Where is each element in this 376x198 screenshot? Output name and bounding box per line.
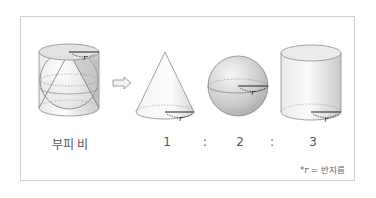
radius-footnote: *r = 반지름: [300, 163, 345, 175]
cone-figure: r: [136, 52, 194, 123]
sphere-figure: r: [208, 56, 268, 116]
sphere-ratio-value: 2: [236, 135, 244, 149]
ratio-separator-1: :: [203, 135, 207, 149]
cone-body: [136, 52, 194, 119]
combined-cylinder-sphere-cone: r: [39, 44, 99, 116]
volume-ratio-label: 부피 비: [52, 135, 89, 152]
cylinder-figure: r: [281, 45, 341, 124]
cylinder-ratio-value: 3: [309, 135, 317, 149]
cylinder-top-ellipse: [281, 45, 341, 61]
ratio-separator-2: :: [270, 135, 274, 149]
footnote-text: = 반지름: [308, 165, 345, 175]
right-arrow-icon: [113, 77, 131, 89]
cone-ratio-value: 1: [163, 135, 171, 149]
cylinder-body: [281, 53, 341, 120]
